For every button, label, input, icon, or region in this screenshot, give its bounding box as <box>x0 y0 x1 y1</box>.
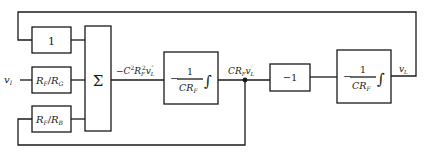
output-label: vL <box>399 64 408 75</box>
sum-output-label: −C2RF2vL″ <box>116 64 155 77</box>
svg-text:1: 1 <box>187 66 193 77</box>
svg-text:∫: ∫ <box>377 70 385 88</box>
svg-text:1: 1 <box>360 64 366 75</box>
input-label: vI <box>4 74 13 86</box>
summer-sigma-label: Σ <box>93 72 104 90</box>
junction-dot <box>243 78 248 83</box>
int1-output-label: CRFvL′ <box>228 64 255 77</box>
block-diagram: 1 RF/RG RF/RB Σ vI −C2RF2vL″ − 1 CRF ∫ C… <box>0 0 425 154</box>
inverter-label: −1 <box>283 72 298 83</box>
gain-one-label: 1 <box>48 35 55 48</box>
svg-text:∫: ∫ <box>204 72 212 90</box>
